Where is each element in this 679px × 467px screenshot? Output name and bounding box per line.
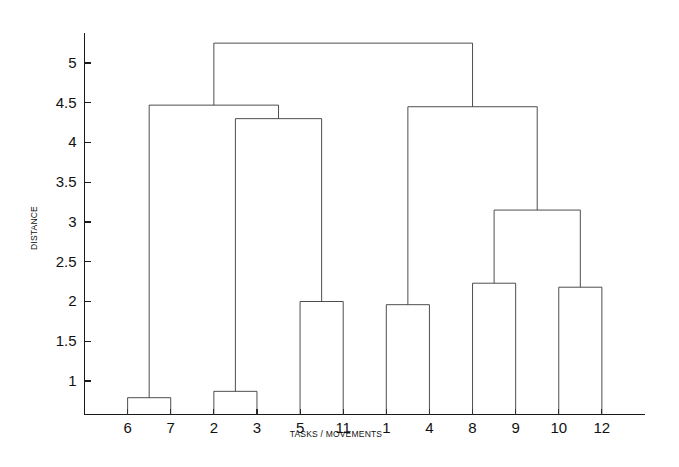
y-tick-label: 4.5 bbox=[56, 94, 77, 111]
merge-link-m6 bbox=[559, 287, 602, 414]
merge-link-m9 bbox=[408, 107, 537, 305]
merge-link-m3 bbox=[300, 302, 343, 415]
merge-link-m5 bbox=[473, 283, 516, 414]
y-tick-label: 5 bbox=[68, 54, 76, 71]
y-tick-label: 3 bbox=[68, 213, 76, 230]
merge-link-m10 bbox=[149, 105, 278, 398]
leaf-label-12: 12 bbox=[594, 419, 611, 436]
dendrogram-plot: 11.522.533.544.55 672351114891012 TASKS … bbox=[0, 0, 679, 467]
leaf-label-10: 10 bbox=[550, 419, 567, 436]
y-tick-label: 2 bbox=[68, 292, 76, 309]
y-tick-label: 1 bbox=[68, 372, 76, 389]
leaf-label-2: 2 bbox=[210, 419, 218, 436]
y-tick-labels: 11.522.533.544.55 bbox=[56, 54, 77, 389]
axes bbox=[85, 33, 646, 415]
y-tick-label: 4 bbox=[68, 133, 76, 150]
dendrogram-figure: 11.522.533.544.55 672351114891012 TASKS … bbox=[0, 0, 679, 467]
merge-link-m2 bbox=[214, 391, 257, 414]
merge-link-m4 bbox=[386, 305, 429, 415]
y-axis-ticks bbox=[85, 63, 91, 381]
y-axis-title: DISTANCE bbox=[29, 206, 39, 250]
leaf-label-1: 1 bbox=[382, 419, 390, 436]
y-tick-label: 3.5 bbox=[56, 173, 77, 190]
merge-link-m1 bbox=[128, 398, 171, 415]
merge-link-m11 bbox=[214, 43, 473, 107]
x-axis-ticks bbox=[128, 409, 602, 415]
x-axis-title: TASKS / MOVEMENTS bbox=[290, 429, 383, 439]
leaf-label-3: 3 bbox=[253, 419, 261, 436]
leaf-label-9: 9 bbox=[511, 419, 519, 436]
y-tick-label: 1.5 bbox=[56, 332, 77, 349]
y-tick-label: 2.5 bbox=[56, 253, 77, 270]
leaf-label-8: 8 bbox=[468, 419, 476, 436]
leaf-label-4: 4 bbox=[425, 419, 433, 436]
dendrogram-links bbox=[128, 43, 602, 414]
leaf-label-6: 6 bbox=[123, 419, 131, 436]
merge-link-m7 bbox=[494, 210, 580, 287]
merge-link-m8 bbox=[235, 119, 321, 392]
leaf-label-7: 7 bbox=[167, 419, 175, 436]
